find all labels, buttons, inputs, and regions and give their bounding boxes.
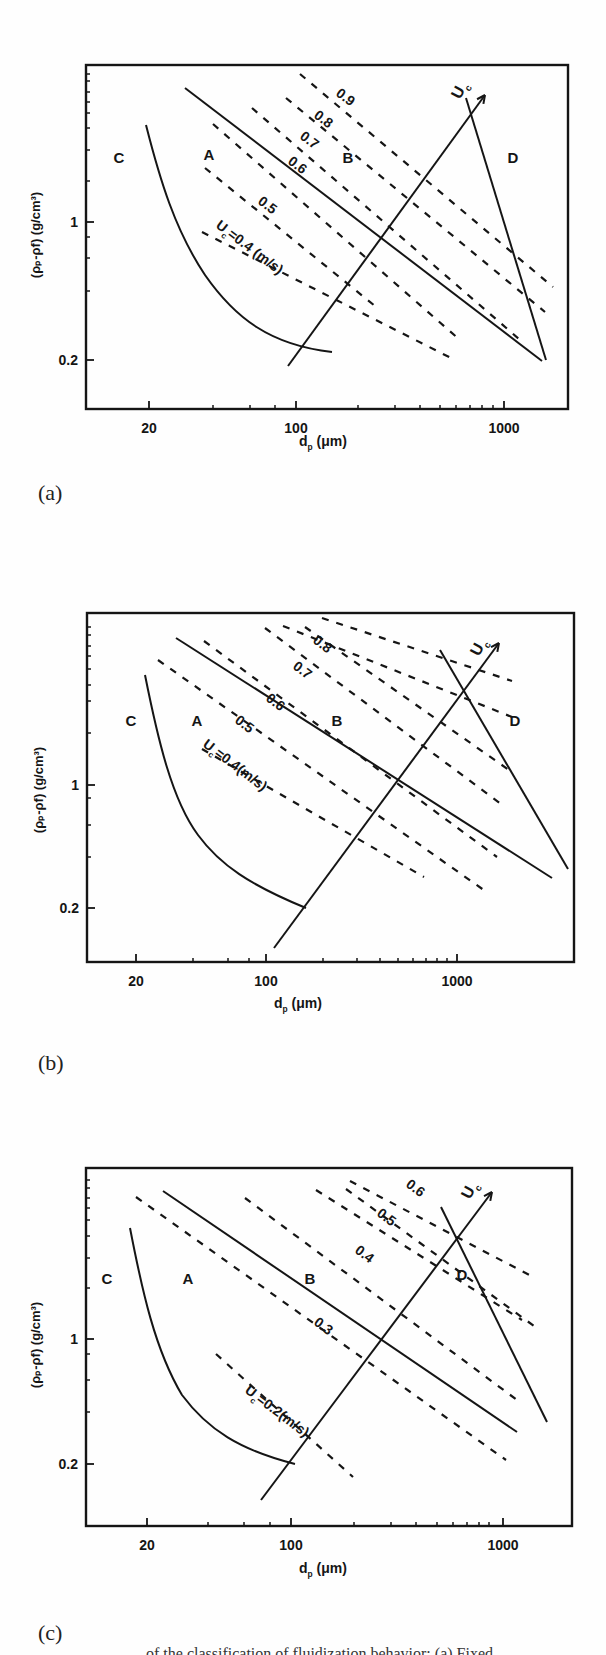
dashed-line-label: 0.3 bbox=[311, 1314, 336, 1339]
figure-caption: ... of the classification of fluidizatio… bbox=[130, 1641, 600, 1655]
dashed-line-label: Uc=0.2(m/s) bbox=[240, 1382, 312, 1443]
region-label-a: A bbox=[183, 1270, 194, 1287]
panel-label-c: (c) bbox=[38, 1620, 62, 1646]
x-axis-label: dp (μm) bbox=[299, 1560, 347, 1579]
uc-dashed-line bbox=[316, 1190, 522, 1320]
y-axis-label: (ρₚ-ρf) (g/cm³) bbox=[28, 1302, 43, 1388]
chart-c-plot: 20100100010.2dp (μm)(ρₚ-ρf) (g/cm³)CABDU… bbox=[0, 0, 606, 1655]
region-label-c: C bbox=[102, 1270, 113, 1287]
dashed-line-label: 0.4 bbox=[352, 1242, 377, 1267]
y-tick-label: 0.2 bbox=[59, 1456, 79, 1472]
uc-dashed-line bbox=[350, 1181, 535, 1278]
x-tick-label: 1000 bbox=[487, 1537, 518, 1553]
uc-arrow-label: Uc bbox=[458, 1178, 485, 1203]
region-label-b: B bbox=[305, 1270, 316, 1287]
x-tick-label: 20 bbox=[139, 1537, 155, 1553]
y-tick-label: 1 bbox=[70, 1331, 78, 1347]
uc-dashed-line bbox=[245, 1198, 517, 1400]
x-tick-label: 100 bbox=[279, 1537, 303, 1553]
dashed-line-label: 0.6 bbox=[403, 1176, 428, 1201]
